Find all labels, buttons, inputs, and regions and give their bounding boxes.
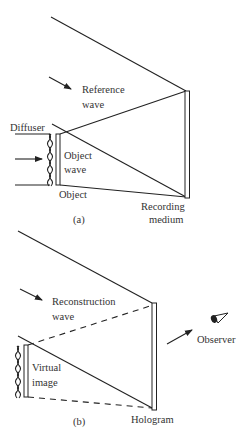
panel-a-caption: (a) [73,214,85,226]
object-wave-upper-edge [60,91,186,134]
diffuser-icon [48,134,53,186]
virtual-image-plate [24,345,28,397]
virtual-image-label-line2: image [32,377,58,388]
observer-eye-icon [210,313,228,324]
reference-wave-label: Reference [82,84,125,95]
observer-arrow-icon [167,330,192,344]
reconstruction-beam-upper-edge [18,231,152,303]
holography-diagram: Reference wave Diffuser Object wave Obje… [0,0,251,443]
reconstruction-wave-label: Reconstruction [52,296,116,307]
virtual-ray-lower [28,397,152,408]
panel-a-recording: Reference wave Diffuser Object wave Obje… [10,17,190,226]
observer-label: Observer [197,334,236,345]
reconstruction-wave-arrow-icon [20,289,42,300]
virtual-image-label: Virtual [32,362,61,373]
object-label: Object [59,189,87,200]
panel-b-reconstruction: Reconstruction wave Virtual image Hologr… [16,231,236,428]
reference-wave-label-line2: wave [82,99,104,110]
reconstruction-wave-label-line2: wave [52,311,74,322]
diffuser-label: Diffuser [10,122,45,133]
hologram-plate [152,303,157,410]
panel-b-caption: (b) [73,416,86,428]
virtual-ray-upper [28,306,150,345]
object-plate [56,134,60,185]
hologram-label: Hologram [131,414,174,425]
recording-medium-label-line2: medium [149,214,183,225]
object-wave-label: Object [64,150,92,161]
virtual-image-diffuser-icon [16,346,21,398]
reference-beam-upper-edge [51,17,186,91]
object-wave-label-line2: wave [64,164,86,175]
recording-medium-plate [185,91,190,198]
recording-medium-label: Recording [141,201,185,212]
reference-wave-arrow-icon [49,77,71,89]
